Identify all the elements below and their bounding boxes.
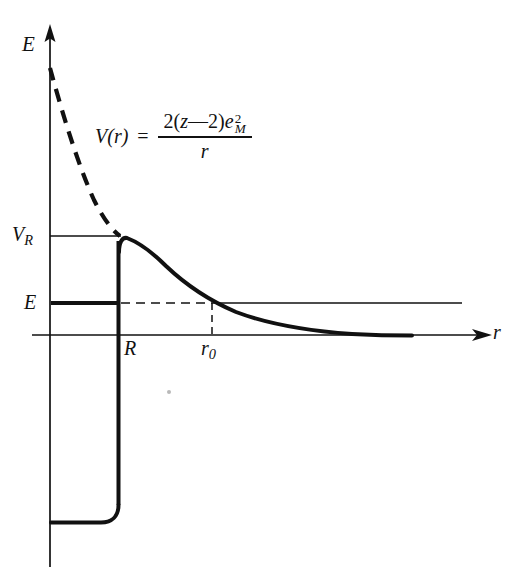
well-bottom-line (51, 505, 119, 523)
x-axis-label: r (493, 322, 501, 342)
formula-function-name: V(r) (95, 125, 128, 148)
formula-e: e (225, 110, 234, 132)
formula-fraction: 2(z—2)e2M r (158, 110, 252, 163)
formula-e-indices: 2M (235, 113, 246, 134)
barrier-height-label-subscript: R (24, 232, 33, 248)
potential-formula: V(r) = 2(z—2)e2M r (95, 110, 252, 163)
y-axis-label: E (22, 34, 35, 55)
formula-e-subscript: M (235, 123, 246, 134)
formula-z: z (180, 110, 188, 132)
energy-level-label: E (24, 292, 36, 312)
barrier-height-label-base: V (12, 223, 24, 245)
formula-numerator: 2(z—2)e2M (158, 110, 252, 136)
plot-canvas (0, 0, 526, 567)
barrier-height-label: VR (12, 224, 33, 247)
formula-close-paren: ) (218, 110, 225, 132)
axis-group (32, 24, 492, 567)
scan-artifact-dot (167, 390, 171, 394)
turning-point-label: r0 (201, 338, 216, 361)
nuclear-radius-label: R (124, 338, 136, 358)
formula-denominator: r (195, 138, 215, 163)
formula-coefficient: 2 (164, 110, 174, 132)
formula-equals-sign: = (135, 125, 150, 148)
turning-point-label-subscript: 0 (209, 346, 216, 362)
potential-energy-figure: E r VR E R r0 V(r) = 2(z—2)e2M r (0, 0, 526, 567)
coulomb-solid-curve (119, 238, 412, 336)
formula-minus: — (188, 110, 208, 132)
formula-two: 2 (208, 110, 218, 132)
turning-point-label-base: r (201, 337, 209, 359)
